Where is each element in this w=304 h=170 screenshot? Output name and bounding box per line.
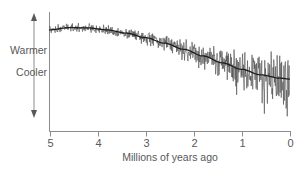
chart-canvas: Warmer Cooler 543210 Millions of years a… — [0, 0, 304, 170]
proxy-record-line — [50, 23, 290, 116]
x-tick-label: 3 — [143, 137, 149, 149]
cooler-label: Cooler — [16, 66, 47, 78]
x-tick-label: 0 — [287, 137, 293, 149]
x-axis-tick-labels: 543210 — [47, 137, 293, 149]
trend-line — [50, 28, 290, 79]
x-axis-title: Millions of years ago — [122, 151, 218, 163]
x-tick-label: 5 — [47, 137, 53, 149]
arrow-down-icon — [31, 110, 37, 118]
x-tick-label: 4 — [95, 137, 101, 149]
x-axis-ticks — [51, 132, 291, 137]
x-tick-label: 1 — [239, 137, 245, 149]
warmer-label: Warmer — [10, 44, 47, 56]
climate-chart: Warmer Cooler 543210 Millions of years a… — [0, 0, 304, 170]
x-tick-label: 2 — [191, 137, 197, 149]
arrow-up-icon — [31, 13, 37, 21]
